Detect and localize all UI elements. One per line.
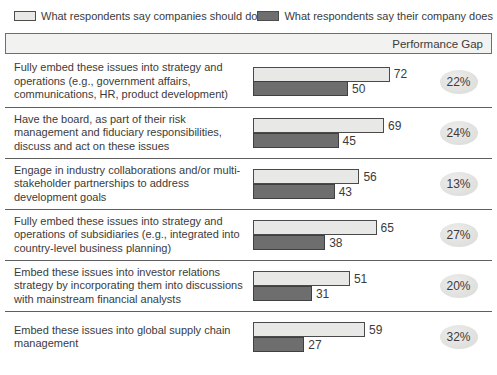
gap-cell: 32% bbox=[425, 325, 492, 349]
legend-item-should: What respondents say companies should do bbox=[14, 10, 257, 22]
bar-value-does: 38 bbox=[329, 236, 342, 250]
bar-does bbox=[253, 235, 325, 250]
chart-row: Embed these issues into investor relatio… bbox=[5, 260, 492, 311]
chart-row: Fully embed these issues into strategy a… bbox=[5, 56, 492, 107]
bar-value-does: 43 bbox=[339, 185, 352, 199]
bar-value-does: 31 bbox=[316, 287, 329, 301]
performance-gap-badge: 13% bbox=[440, 172, 478, 196]
gap-cell: 24% bbox=[425, 121, 492, 145]
performance-gap-header: Performance Gap bbox=[5, 33, 492, 54]
bar-value-should: 72 bbox=[394, 67, 407, 81]
gap-cell: 27% bbox=[425, 223, 492, 247]
gap-cell: 13% bbox=[425, 172, 492, 196]
bar-group: 69 45 bbox=[253, 118, 405, 148]
legend-swatch-dark-icon bbox=[257, 11, 279, 21]
bar-value-should: 69 bbox=[388, 119, 401, 133]
performance-gap-badge: 24% bbox=[440, 121, 478, 145]
chart-row: Embed these issues into global supply ch… bbox=[5, 311, 492, 362]
bar-line-should: 59 bbox=[253, 322, 405, 337]
bar-line-should: 69 bbox=[253, 118, 405, 133]
bar-value-should: 56 bbox=[363, 170, 376, 184]
bar-does bbox=[253, 337, 304, 352]
bar-should bbox=[253, 220, 377, 235]
performance-gap-header-label: Performance Gap bbox=[392, 38, 483, 50]
bar-line-does: 50 bbox=[253, 82, 405, 97]
gap-cell: 22% bbox=[425, 70, 492, 94]
performance-gap-badge: 22% bbox=[440, 70, 478, 94]
bar-line-does: 38 bbox=[253, 235, 405, 250]
bar-does bbox=[253, 184, 335, 199]
bar-value-does: 27 bbox=[308, 338, 321, 352]
chart-row: Have the board, as part of their risk ma… bbox=[5, 107, 492, 158]
bar-group: 51 31 bbox=[253, 271, 405, 301]
bar-should bbox=[253, 67, 390, 82]
performance-gap-badge: 27% bbox=[440, 223, 478, 247]
category-label: Embed these issues into global supply ch… bbox=[5, 324, 253, 351]
bar-does bbox=[253, 133, 339, 148]
bar-group: 65 38 bbox=[253, 220, 405, 250]
legend-item-does: What respondents say their company does bbox=[257, 10, 493, 22]
bar-value-does: 50 bbox=[352, 82, 365, 96]
bar-line-should: 56 bbox=[253, 169, 405, 184]
bar-group: 59 27 bbox=[253, 322, 405, 352]
bar-does bbox=[253, 81, 348, 96]
bar-line-should: 51 bbox=[253, 271, 405, 286]
bar-line-should: 65 bbox=[253, 220, 405, 235]
bar-should bbox=[253, 322, 365, 337]
category-label: Have the board, as part of their risk ma… bbox=[5, 113, 253, 154]
category-label: Embed these issues into investor relatio… bbox=[5, 266, 253, 307]
bar-should bbox=[253, 271, 350, 286]
bar-value-should: 59 bbox=[369, 323, 382, 337]
bar-line-does: 27 bbox=[253, 337, 405, 352]
chart-page: What respondents say companies should do… bbox=[0, 0, 497, 375]
legend-label-does: What respondents say their company does bbox=[284, 10, 493, 22]
chart-row: Engage in industry collaborations and/or… bbox=[5, 158, 492, 209]
bar-group: 56 43 bbox=[253, 169, 405, 199]
bar-line-does: 43 bbox=[253, 184, 405, 199]
gap-cell: 20% bbox=[425, 274, 492, 298]
bar-value-does: 45 bbox=[343, 134, 356, 148]
bar-line-does: 31 bbox=[253, 286, 405, 301]
category-label: Fully embed these issues into strategy a… bbox=[5, 61, 253, 102]
performance-gap-badge: 32% bbox=[440, 325, 478, 349]
chart-row: Fully embed these issues into strategy a… bbox=[5, 209, 492, 260]
category-label: Fully embed these issues into strategy a… bbox=[5, 215, 253, 256]
bar-line-should: 72 bbox=[253, 67, 405, 82]
bar-line-does: 45 bbox=[253, 133, 405, 148]
bar-value-should: 65 bbox=[381, 221, 394, 235]
bar-should bbox=[253, 118, 384, 133]
bar-should bbox=[253, 169, 359, 184]
performance-gap-badge: 20% bbox=[440, 274, 478, 298]
chart-legend: What respondents say companies should do… bbox=[5, 8, 492, 24]
bar-value-should: 51 bbox=[354, 272, 367, 286]
category-label: Engage in industry collaborations and/or… bbox=[5, 164, 253, 205]
bar-group: 72 50 bbox=[253, 67, 405, 97]
bar-does bbox=[253, 286, 312, 301]
legend-swatch-light-icon bbox=[14, 11, 36, 21]
legend-label-should: What respondents say companies should do bbox=[41, 10, 257, 22]
